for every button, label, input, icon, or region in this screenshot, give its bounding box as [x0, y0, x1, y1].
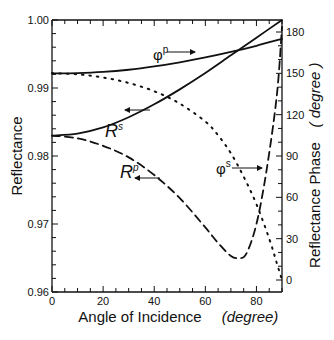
- series-line-r-p: [52, 27, 282, 258]
- x-axis-label: Angle of Incidence: [78, 308, 201, 325]
- y2-tick-label: 60: [286, 191, 298, 203]
- x-tick-label: 60: [199, 295, 211, 307]
- y2-tick-label: 30: [286, 233, 298, 245]
- y-tick-label: 0.98: [28, 150, 49, 162]
- axes: 0204060800.960.970.980.991.0003060901201…: [28, 14, 305, 307]
- y2-tick-label: 180: [286, 26, 304, 38]
- series-line-phi-s: [52, 73, 282, 280]
- x-tick-label: 40: [148, 295, 160, 307]
- y-axis-label: Reflectance: [8, 116, 25, 195]
- y-tick-label: 0.96: [28, 286, 49, 298]
- annotation-label: Rp: [120, 162, 139, 182]
- x-tick-label: 80: [250, 295, 262, 307]
- y-tick-label: 1.00: [28, 14, 49, 26]
- y2-axis-unit: ( degree ): [306, 62, 323, 127]
- y2-tick-label: 150: [286, 67, 304, 79]
- chart-container: 0204060800.960.970.980.991.0003060901201…: [0, 0, 334, 340]
- plot-area: [52, 20, 282, 280]
- curve-annotations: φpRsRpφs: [105, 44, 262, 182]
- annotation-label: φs: [216, 158, 231, 177]
- series-line-r-s: [52, 20, 282, 136]
- y-tick-label: 0.97: [28, 218, 49, 230]
- x-tick-label: 0: [49, 295, 55, 307]
- y2-tick-label: 0: [286, 274, 292, 286]
- annotation-label: φp: [153, 44, 169, 63]
- y2-tick-label: 90: [286, 150, 298, 162]
- x-axis-unit: (degree): [222, 308, 279, 325]
- annotation-label: Rs: [105, 121, 123, 141]
- y2-axis-label: Reflectance Phase: [306, 142, 323, 268]
- x-tick-label: 20: [97, 295, 109, 307]
- y-tick-label: 0.99: [28, 82, 49, 94]
- y2-tick-label: 120: [286, 109, 304, 121]
